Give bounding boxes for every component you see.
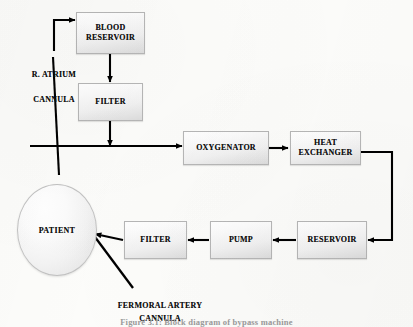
node-reservoir[interactable]: RESERVOIR xyxy=(297,221,367,259)
figure-block-diagram: BLOOD RESERVOIR FILTER OXYGENATOR HEAT E… xyxy=(0,0,413,327)
node-oxygenator[interactable]: OXYGENATOR xyxy=(183,131,269,165)
node-patient[interactable]: PATIENT xyxy=(17,184,97,276)
node-pump[interactable]: PUMP xyxy=(210,221,272,259)
node-blood-reservoir[interactable]: BLOOD RESERVOIR xyxy=(76,12,145,54)
node-patient-label: PATIENT xyxy=(39,226,75,235)
node-reservoir-label: RESERVOIR xyxy=(307,235,356,245)
node-pump-label: PUMP xyxy=(229,235,253,245)
node-heat-exchanger-label: HEAT EXCHANGER xyxy=(299,138,353,158)
node-oxygenator-label: OXYGENATOR xyxy=(196,143,256,153)
node-filter-bottom[interactable]: FILTER xyxy=(124,221,187,259)
edge-filter-bottom-to-patient xyxy=(95,234,123,240)
node-filter-bottom-label: FILTER xyxy=(140,235,170,245)
figure-caption-text: Figure 3.1: Block diagram of bypass mach… xyxy=(0,318,413,327)
node-blood-reservoir-label: BLOOD RESERVOIR xyxy=(86,23,135,43)
node-heat-exchanger[interactable]: HEAT EXCHANGER xyxy=(290,131,361,165)
label-right-atrium-cannula: R. ATRIUM CANNULA xyxy=(8,57,100,107)
figure-caption: Figure 3.1: Block diagram of bypass mach… xyxy=(0,318,413,327)
label-right-atrium-cannula-text: R. ATRIUM CANNULA xyxy=(32,70,76,104)
edge-cannula-to-blood-reservoir xyxy=(54,20,75,51)
